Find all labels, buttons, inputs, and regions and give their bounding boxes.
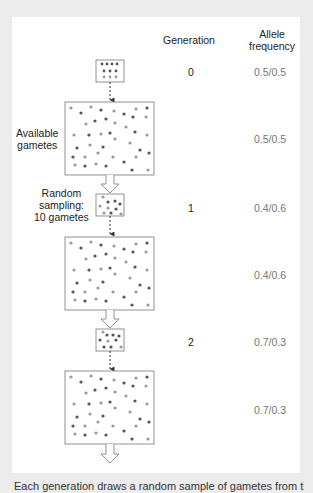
sample-box-gen1 (96, 194, 124, 216)
gamete-pool-gen1 (65, 237, 154, 310)
hollow-arrow-0 (101, 175, 119, 193)
hollow-arrow-2 (101, 444, 119, 463)
gamete-pool-gen0 (65, 102, 154, 175)
sample-box-gen2 (96, 329, 124, 351)
drift-diagram (0, 0, 313, 493)
hollow-arrow-1 (101, 310, 119, 328)
sample-box-gen0 (96, 60, 124, 82)
figure-caption: Each generation draws a random sample of… (14, 480, 304, 492)
gamete-pool-gen2 (65, 371, 154, 444)
